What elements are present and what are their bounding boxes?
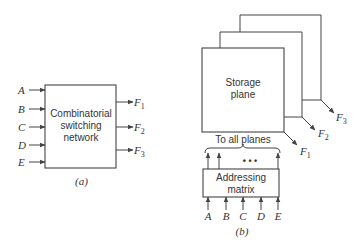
output-f2: F2 (116, 121, 145, 136)
output-label: F1 (299, 145, 311, 160)
input-label: B (18, 103, 25, 115)
diagram-a: Combinatorial switching network A B C D … (17, 84, 145, 188)
output-f3: F3 (116, 144, 145, 159)
input-label: D (17, 139, 26, 151)
output-f1: F1 (116, 96, 145, 111)
input-d: D (17, 139, 45, 151)
input-label: E (17, 156, 25, 168)
brace-icon (205, 144, 280, 153)
storage-plane-label-line1: Storage (225, 77, 260, 88)
matrix-input-d: D (256, 197, 265, 222)
storage-plane-label-line2: plane (231, 89, 256, 100)
network-label-line3: network (63, 132, 99, 143)
addressing-matrix-label-line1: Addressing (216, 172, 266, 183)
output-f2: F2 (302, 117, 329, 142)
output-f1: F1 (284, 132, 311, 160)
arrow-diagonal-icon (321, 100, 334, 113)
matrix-input-a: A (204, 197, 212, 222)
network-label-line1: Combinatorial (50, 108, 112, 119)
input-label: A (17, 84, 25, 96)
input-label: C (239, 210, 247, 222)
caption-a: (a) (75, 175, 88, 188)
output-label: F3 (335, 111, 347, 126)
input-e: E (17, 156, 45, 168)
to-all-planes-label: To all planes (215, 134, 271, 145)
input-c: C (18, 121, 45, 133)
output-f3: F3 (321, 100, 347, 126)
input-b: B (18, 103, 45, 115)
matrix-input-c: C (239, 197, 247, 222)
input-label: E (274, 210, 282, 222)
output-label: F2 (317, 127, 329, 142)
input-label: B (223, 210, 230, 222)
matrix-input-b: B (223, 197, 230, 222)
output-label: F1 (133, 96, 145, 111)
input-label: D (256, 210, 265, 222)
arrow-diagonal-icon (302, 117, 315, 130)
ellipsis: • • • (243, 156, 257, 166)
matrix-input-e: E (274, 197, 282, 222)
addressing-matrix-label-line2: matrix (227, 184, 254, 195)
input-label: C (18, 121, 26, 133)
arrow-diagonal-icon (284, 132, 297, 145)
diagram-b: Storage plane F3 F2 F1 To all planes • •… (202, 15, 347, 238)
output-label: F2 (133, 121, 145, 136)
output-label: F3 (133, 144, 145, 159)
input-a: A (17, 84, 45, 96)
network-label-line2: switching (60, 120, 101, 131)
caption-b: (b) (236, 225, 249, 238)
diagram-canvas: Combinatorial switching network A B C D … (0, 0, 358, 245)
input-label: A (204, 210, 212, 222)
